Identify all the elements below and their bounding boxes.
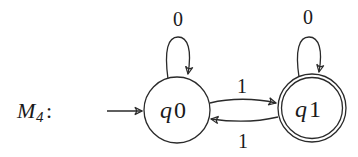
q1-self-loop-arrow-icon [297, 37, 320, 77]
state-q0: q 0 [144, 77, 210, 143]
q1-label-number: 1 [309, 96, 321, 122]
machine-subscript: 4 [36, 109, 44, 125]
q0-loop-symbol: 0 [173, 8, 183, 30]
q1-label-letter: q [295, 96, 307, 122]
state-q1: q 1 [278, 74, 346, 142]
dfa-diagram: M 4 : 0 0 1 1 q 0 q 1 [0, 0, 358, 157]
machine-colon: : [46, 98, 52, 123]
machine-name: M [16, 98, 37, 123]
q0-label-number: 0 [174, 97, 186, 123]
q0-to-q1-arrow-icon [210, 99, 276, 103]
q0-to-q1-symbol: 1 [237, 75, 247, 97]
q1-to-q0-arrow-icon [211, 117, 278, 121]
q1-loop-symbol: 0 [303, 6, 313, 28]
q1-to-q0-symbol: 1 [238, 130, 248, 152]
machine-label: M 4 : [16, 98, 52, 125]
q0-self-loop-arrow-icon [166, 37, 189, 79]
q0-label-letter: q [160, 97, 172, 123]
